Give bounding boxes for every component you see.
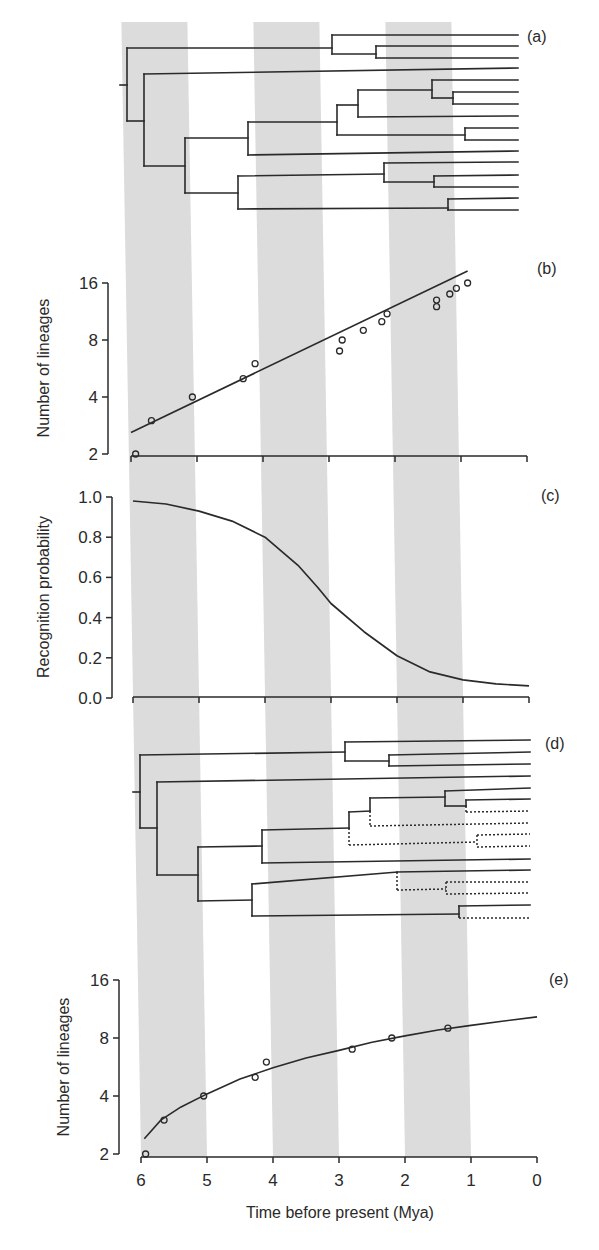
- data-point: [337, 348, 343, 354]
- y-tick-label: 0.6: [78, 568, 102, 587]
- branch: [370, 797, 445, 798]
- panel-label-c: (c): [541, 487, 560, 504]
- y-tick-label: 8: [100, 1029, 109, 1048]
- branch: [144, 68, 518, 74]
- unrecognized-branch: [466, 811, 530, 812]
- data-point: [465, 280, 471, 286]
- x-tick-label: 5: [202, 1171, 211, 1190]
- x-tick-label: 6: [136, 1171, 145, 1190]
- branch: [434, 175, 518, 176]
- y-tick-label: 2: [100, 1145, 109, 1164]
- y-axis-label-b: Number of lineages: [35, 299, 52, 438]
- panel-label-d: (d): [545, 735, 565, 752]
- unrecognized-branch: [446, 893, 530, 894]
- branch: [198, 900, 252, 901]
- branch: [448, 198, 518, 199]
- y-tick-label: 1.0: [78, 488, 102, 507]
- panel-label-e: (e): [549, 971, 569, 988]
- y-axis-label-c: Recognition probability: [35, 516, 52, 678]
- panel-label-a: (a): [527, 28, 547, 45]
- data-point: [263, 1059, 269, 1065]
- branch: [459, 905, 530, 906]
- branch: [349, 811, 370, 812]
- data-point: [339, 337, 345, 343]
- panel-label-b: (b): [537, 260, 557, 277]
- unrecognized-branch: [477, 846, 530, 847]
- branch: [238, 208, 448, 209]
- branch: [358, 116, 518, 117]
- y-tick-label: 4: [100, 1087, 109, 1106]
- x-axis-label: Time before present (Mya): [246, 1204, 434, 1221]
- y-tick-label: 2: [89, 445, 98, 464]
- branch: [384, 162, 518, 163]
- unrecognized-branch: [477, 834, 530, 835]
- branch: [466, 799, 530, 800]
- y-tick-label: 16: [79, 274, 98, 293]
- x-tick-label: 2: [400, 1171, 409, 1190]
- x-tick-label: 4: [268, 1171, 277, 1190]
- x-tick-label: 3: [334, 1171, 343, 1190]
- y-tick-label: 8: [89, 331, 98, 350]
- y-tick-label: 0.4: [78, 609, 102, 628]
- x-tick-label: 0: [532, 1171, 541, 1190]
- branch: [157, 776, 530, 782]
- shaded-time-bands: [121, 22, 471, 1157]
- data-point: [252, 1074, 258, 1080]
- data-point: [360, 327, 366, 333]
- data-point: [252, 361, 258, 367]
- figure: 16842 1.00.80.60.40.20.0 168426543210 (a…: [0, 0, 599, 1250]
- branch: [198, 846, 262, 847]
- y-tick-label: 0.8: [78, 528, 102, 547]
- y-tick-label: 0.2: [78, 649, 102, 668]
- y-axis-label-e: Number of lineages: [55, 998, 72, 1137]
- y-tick-label: 4: [89, 388, 98, 407]
- data-point: [384, 311, 390, 317]
- x-tick-label: 1: [466, 1171, 475, 1190]
- data-point: [379, 319, 385, 325]
- branch: [345, 740, 530, 742]
- y-tick-label: 0.0: [78, 689, 102, 708]
- shaded-band-1: [253, 22, 339, 1157]
- shaded-band-2: [385, 22, 471, 1157]
- y-tick-label: 16: [90, 971, 109, 990]
